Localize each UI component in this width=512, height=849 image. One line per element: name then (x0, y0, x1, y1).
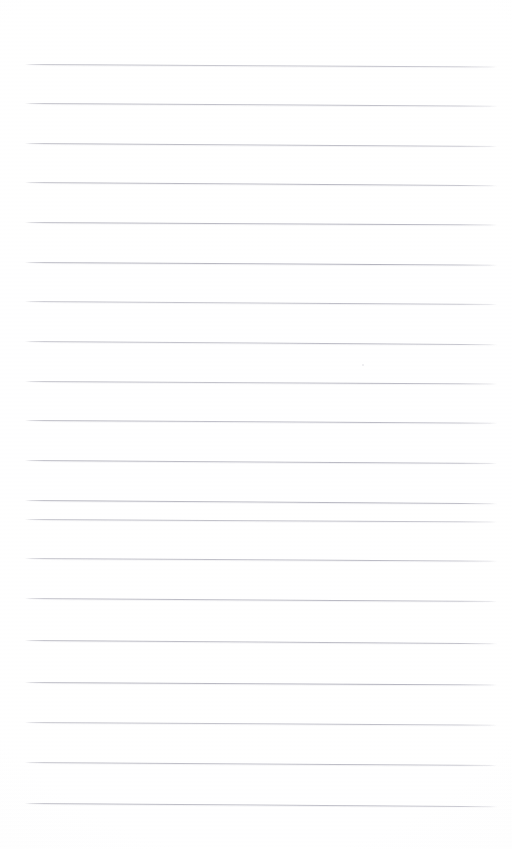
rule-line (25, 420, 497, 424)
ruled-lines-group (0, 0, 512, 849)
rule-line (25, 103, 497, 107)
rule-line (25, 558, 497, 562)
rule-line (25, 182, 497, 186)
rule-line (25, 460, 497, 464)
rule-line (25, 640, 497, 644)
rule-line (25, 143, 497, 147)
notebook-page (0, 0, 512, 849)
rule-line (25, 722, 497, 726)
rule-line (25, 341, 497, 345)
rule-line (25, 682, 497, 685)
rule-line (25, 381, 497, 384)
rule-line (25, 762, 497, 766)
rule-line (25, 301, 497, 305)
rule-line (25, 598, 497, 602)
rule-line (25, 519, 497, 522)
rule-line (25, 803, 497, 807)
rule-line (25, 500, 497, 504)
rule-line (25, 64, 497, 67)
rule-line (25, 222, 497, 225)
rule-line (25, 262, 497, 266)
